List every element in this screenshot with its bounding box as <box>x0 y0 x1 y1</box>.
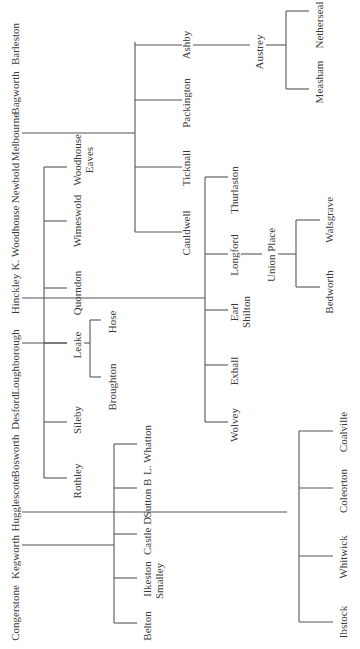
tree-diagram: Barleston Bagworth Melbourne Newbold K. … <box>0 0 360 649</box>
node-smalley: Smalley <box>153 562 165 599</box>
node-leake: Leake <box>71 331 83 358</box>
node-coalville: Coalville <box>337 412 349 452</box>
root-label-barleston: Barleston <box>9 22 21 65</box>
root-labels: Barleston Bagworth Melbourne Newbold K. … <box>9 22 21 640</box>
node-union-place: Union Place <box>265 228 277 282</box>
node-belton: Belton <box>141 611 153 641</box>
node-woodhouse-eaves-line1: Woodhouse <box>71 134 83 186</box>
node-hose: Hose <box>106 311 118 334</box>
root-label-bosworth: Bosworth <box>9 434 21 477</box>
node-earl-shilton-line2: Shilton <box>240 296 252 328</box>
branch-melbourne: Ashby Packington Ticknall Cauldwell Aust… <box>22 1 325 255</box>
node-ibstock: Ibstock <box>337 605 349 638</box>
node-wolvey: Wolvey <box>228 408 240 442</box>
node-woodhouse-eaves-line2: Eaves <box>83 147 95 173</box>
root-label-hinckley: Hinckley <box>9 273 21 314</box>
root-label-kegworth: Kegworth <box>9 535 21 579</box>
node-longford: Longford <box>228 234 240 276</box>
node-earl-shilton-line1: Earl <box>228 303 240 321</box>
branch-hugglescote: Coalville Coleorton Whitwick Ibstock <box>22 412 349 638</box>
node-rothley: Rothley <box>71 463 83 498</box>
node-ilkeston: Ilkeston <box>141 561 153 597</box>
node-measham: Measham <box>313 60 325 103</box>
node-wimeswold: Wimeswold <box>71 194 83 247</box>
node-bedworth: Bedworth <box>323 270 335 314</box>
branch-loughborough: Woodhouse Eaves Wimeswold Quorndon Leake… <box>22 134 118 498</box>
node-broughton: Broughton <box>106 363 118 411</box>
node-austrey: Austrey <box>253 34 265 69</box>
node-quorndon: Quorndon <box>71 270 83 315</box>
root-label-bagworth: Bagworth <box>9 71 21 115</box>
node-packington: Packington <box>180 78 192 128</box>
node-netherseal: Netherseal <box>313 1 325 48</box>
node-coleorton: Coleorton <box>337 469 349 513</box>
root-label-melbourne: Melbourne <box>9 113 21 161</box>
root-label-congerstone: Congerstone <box>9 585 21 641</box>
node-exhall: Exhall <box>228 357 240 386</box>
root-label-k-woodhouse: K. Woodhouse <box>9 205 21 270</box>
node-ticknall: Ticknall <box>180 150 192 186</box>
branch-hinckley: Thurlaston Longford Earl Shilton Exhall … <box>22 166 335 442</box>
node-whitwick: Whitwick <box>337 535 349 579</box>
node-l-whatton: L. Whatton <box>141 425 153 475</box>
root-label-loughborough: Loughborough <box>9 329 21 395</box>
node-ashby: Ashby <box>180 30 192 59</box>
node-castle-d: Castle D <box>141 517 153 555</box>
node-sileby: Sileby <box>71 405 83 434</box>
root-label-hugglescote: Hugglescote <box>9 476 21 531</box>
root-label-desford: Desford <box>9 394 21 430</box>
root-label-newbold: Newbold <box>9 162 21 203</box>
node-cauldwell: Cauldwell <box>180 210 192 255</box>
node-thurlaston: Thurlaston <box>228 166 240 214</box>
node-walsgrave: Walsgrave <box>323 197 335 243</box>
